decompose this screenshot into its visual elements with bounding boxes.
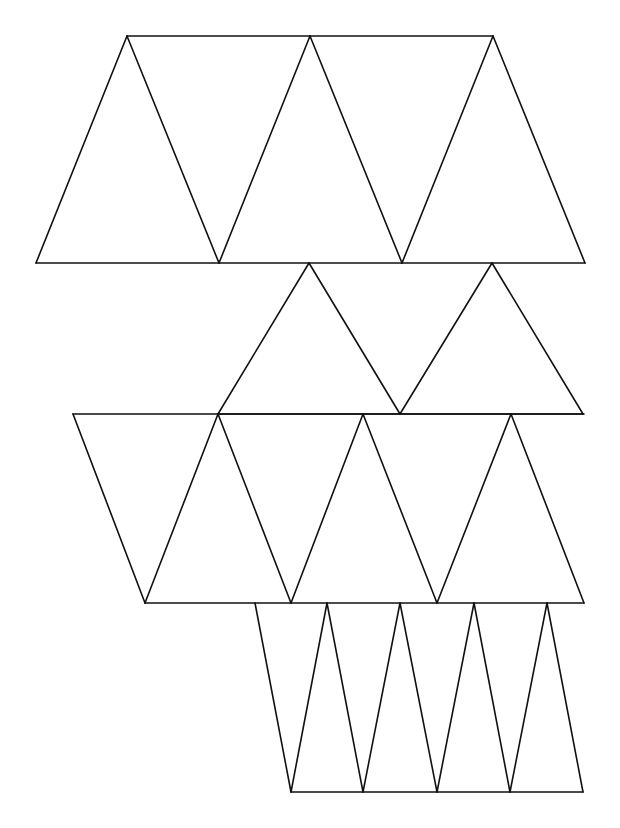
band-4-diagonal-edge [437, 603, 474, 792]
band-1-diagonal-edge [493, 36, 585, 263]
band-3-diagonal-edge [363, 414, 437, 603]
band-3-diagonal-edge [218, 414, 291, 603]
band-2-diagonal-edge [492, 263, 583, 414]
band-3-diagonal-edge [291, 414, 363, 603]
band-4-diagonal-edge [291, 603, 327, 792]
band-1-diagonal-edge [36, 36, 127, 263]
triangle-net-diagram [0, 0, 620, 828]
band-2-diagonal-edge [309, 263, 400, 414]
band-2-diagonal-edge [400, 263, 492, 414]
band-3-diagonal-edge [73, 414, 145, 603]
edges-group [36, 36, 585, 792]
band-4-diagonal-edge [474, 603, 510, 792]
band-3-diagonal-edge [511, 414, 584, 603]
band-4-diagonal-edge [510, 603, 547, 792]
band-3-diagonal-edge [437, 414, 511, 603]
band-4-diagonal-edge [327, 603, 363, 792]
band-1-diagonal-edge [219, 36, 310, 263]
band-4-diagonal-edge [400, 603, 437, 792]
band-4-diagonal-edge [255, 603, 291, 792]
band-1-diagonal-edge [127, 36, 219, 263]
band-1-diagonal-edge [310, 36, 402, 263]
band-1-diagonal-edge [402, 36, 493, 263]
band-2-diagonal-edge [218, 263, 309, 414]
band-3-diagonal-edge [145, 414, 218, 603]
band-4-diagonal-edge [547, 603, 583, 792]
band-4-diagonal-edge [363, 603, 400, 792]
